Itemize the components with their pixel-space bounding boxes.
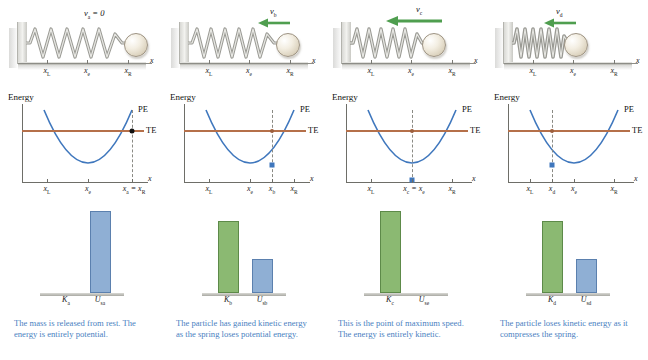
pe-label-c: PE [462, 104, 472, 114]
pe-label-d: PE [624, 104, 634, 114]
energy-graph-b: Energy x TE PE xL xe xb xR [162, 90, 324, 200]
scene-axis-d [504, 63, 638, 64]
bar-potential-label-c: Use [419, 295, 429, 306]
velocity-arrow-d [544, 18, 576, 28]
graph-tick-c-3 [452, 179, 453, 183]
bar-potential-label-a: Usa [95, 295, 105, 306]
scene-tick-label-c-2: xe [408, 66, 414, 77]
graph-title-c: Energy [332, 92, 358, 102]
state-marker-d [550, 163, 555, 168]
graph-tick-label-a-3: xa = xR [123, 184, 146, 195]
scene-axis-b [180, 63, 314, 64]
bar-baseline-b [202, 293, 286, 296]
te-marker-b [270, 129, 274, 133]
velocity-arrow-c [386, 16, 442, 26]
bar-potential-label-d: Usd [581, 295, 592, 306]
bar-potential-b [252, 223, 271, 293]
energy-graph-c: Energy x TE PE xL xc = xe xR [324, 90, 486, 200]
scene-tick-label-d-2: xe [570, 66, 576, 77]
panel-a: va = 0 x xL xe xR Energy x TE PE [0, 0, 162, 360]
te-line-b [184, 130, 306, 132]
bar-kinetic-label-b: Kb [224, 295, 232, 306]
scene-tick-c-3 [452, 60, 453, 64]
graph-x-axis-d [508, 182, 634, 183]
graph-tick-c-1 [371, 179, 372, 183]
spring-scene-b: vb x xL xe xR [162, 0, 324, 90]
scene-tick-label-a-3: xR [124, 66, 131, 77]
scene-tick-label-d-3: xR [610, 66, 617, 77]
graph-tick-label-c-3: xR [448, 184, 455, 195]
graph-tick-a-3 [132, 179, 133, 183]
bar-potential-c [414, 213, 433, 293]
caption-a: The mass is released from rest. The ener… [14, 318, 154, 341]
energy-bars-c: Kc Use [324, 200, 486, 305]
velocity-arrow-b [258, 18, 290, 28]
spring-scene-d: vd x xL xe xR [486, 0, 648, 90]
bar-kinetic-a [56, 213, 75, 293]
te-line-c [346, 130, 468, 132]
energy-bars-d: Kd Usd [486, 200, 648, 305]
graph-dash-a [132, 110, 133, 182]
scene-axis-c [342, 63, 476, 64]
energy-graph-d: Energy x TE PE xL xd xe xR [486, 90, 648, 200]
graph-x-label-a: x [148, 174, 152, 183]
panel-b: vb x xL xe xR Energy x TE PE [162, 0, 324, 360]
graph-tick-label-b-4: xR [290, 184, 297, 195]
spring-c [350, 26, 428, 60]
graph-tick-d-3 [574, 179, 575, 183]
te-marker-c [410, 129, 414, 133]
velocity-label-b: vb [270, 6, 277, 18]
scene-tick-label-c-1: xL [368, 66, 375, 77]
bar-potential-fill-d [576, 259, 597, 293]
te-label-d: TE [632, 125, 642, 135]
scene-tick-b-1 [209, 60, 210, 64]
pe-label-b: PE [300, 104, 310, 114]
caption-d: The particle loses kinetic energy as it … [500, 318, 640, 341]
bar-kinetic-c [380, 213, 399, 293]
energy-bars-b: Kb Usb [162, 200, 324, 305]
graph-tick-label-b-1: xL [206, 184, 213, 195]
bar-potential-label-b: Usb [257, 295, 268, 306]
te-label-a: TE [146, 125, 156, 135]
graph-title-d: Energy [494, 92, 520, 102]
bar-kinetic-d [542, 223, 561, 293]
bar-kinetic-label-a: Ka [62, 295, 70, 306]
bar-kinetic-fill-c [380, 211, 401, 293]
spring-b [188, 26, 282, 60]
bar-baseline-c [364, 293, 448, 296]
scene-tick-c-2 [411, 60, 412, 64]
scene-tick-a-2 [87, 60, 88, 64]
caption-b: The particle has gained kinetic energy a… [176, 318, 316, 341]
scene-tick-d-3 [614, 60, 615, 64]
graph-x-label-b: x [310, 174, 314, 183]
te-label-b: TE [308, 125, 318, 135]
graph-dash-d [552, 110, 553, 182]
te-line-a [22, 130, 144, 132]
graph-title-b: Energy [170, 92, 196, 102]
mass-ball-d [564, 33, 588, 57]
graph-tick-label-d-4: xR [610, 184, 617, 195]
scene-tick-b-3 [290, 60, 291, 64]
scene-tick-a-3 [128, 60, 129, 64]
scene-tick-b-2 [249, 60, 250, 64]
graph-tick-label-d-1: xL [527, 184, 534, 195]
mass-ball-b [276, 33, 300, 57]
bar-potential-fill-b [252, 259, 273, 293]
graph-tick-label-b-3: xb [269, 184, 275, 195]
graph-tick-d-4 [614, 179, 615, 183]
graph-tick-d-1 [530, 179, 531, 183]
mass-ball-a [124, 33, 148, 57]
graph-title-a: Energy [8, 92, 34, 102]
graph-tick-a-1 [47, 179, 48, 183]
energy-bars-a: Ka Usa [0, 200, 162, 305]
scene-tick-c-1 [371, 60, 372, 64]
state-marker-b [270, 163, 275, 168]
graph-x-axis-a [22, 182, 148, 183]
graph-tick-label-a-1: xL [44, 184, 51, 195]
graph-tick-b-1 [209, 179, 210, 183]
graph-tick-c-2 [412, 179, 413, 183]
graph-tick-a-2 [88, 179, 89, 183]
graph-tick-d-2 [552, 179, 553, 183]
mass-ball-c [422, 33, 446, 57]
pe-curve-b [184, 104, 310, 182]
